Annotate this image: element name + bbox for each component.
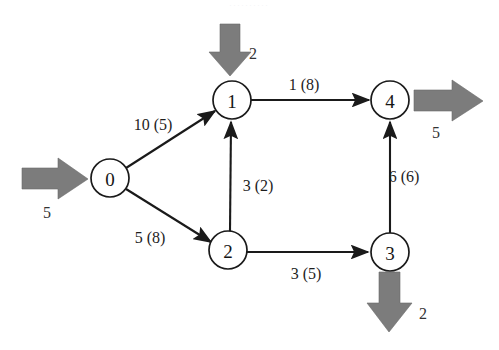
inflow-node0-left-arrow	[22, 158, 88, 199]
node-1[interactable]: 1	[213, 81, 251, 119]
inflow-node1-top-label: 2	[249, 45, 257, 62]
node-1-label: 1	[227, 91, 237, 112]
node-0[interactable]: 0	[91, 159, 129, 197]
edge-label-1-4: 1 (8)	[289, 76, 320, 94]
outflow-node3-bottom-arrow	[367, 272, 412, 332]
inflow-node1-top-arrow	[209, 24, 251, 76]
edge-label-0-2: 5 (8)	[135, 229, 166, 247]
outflow-node4-right-label: 5	[432, 124, 440, 141]
node-0-label: 0	[105, 169, 115, 190]
node-3[interactable]: 3	[371, 233, 409, 271]
edge-label-2-1: 3 (2)	[243, 177, 274, 195]
node-4-label: 4	[385, 91, 395, 112]
edge-label-3-4: 6 (6)	[389, 168, 420, 186]
node-2-label: 2	[223, 241, 233, 262]
flow-network-canvas: 2 5 5 2 1	[0, 0, 499, 350]
node-2[interactable]: 2	[209, 231, 247, 269]
flow-network-figure: .......... 2 5 5	[0, 0, 499, 350]
edge-label-2-3: 3 (5)	[291, 265, 322, 283]
inflow-node0-left-label: 5	[43, 204, 51, 221]
edge-label-0-1: 10 (5)	[134, 116, 173, 134]
outflow-node4-right-arrow	[414, 80, 483, 121]
outflow-node3-bottom-label: 2	[419, 305, 427, 322]
node-3-label: 3	[385, 243, 395, 264]
edge-2-1	[230, 122, 231, 231]
node-4[interactable]: 4	[371, 81, 409, 119]
